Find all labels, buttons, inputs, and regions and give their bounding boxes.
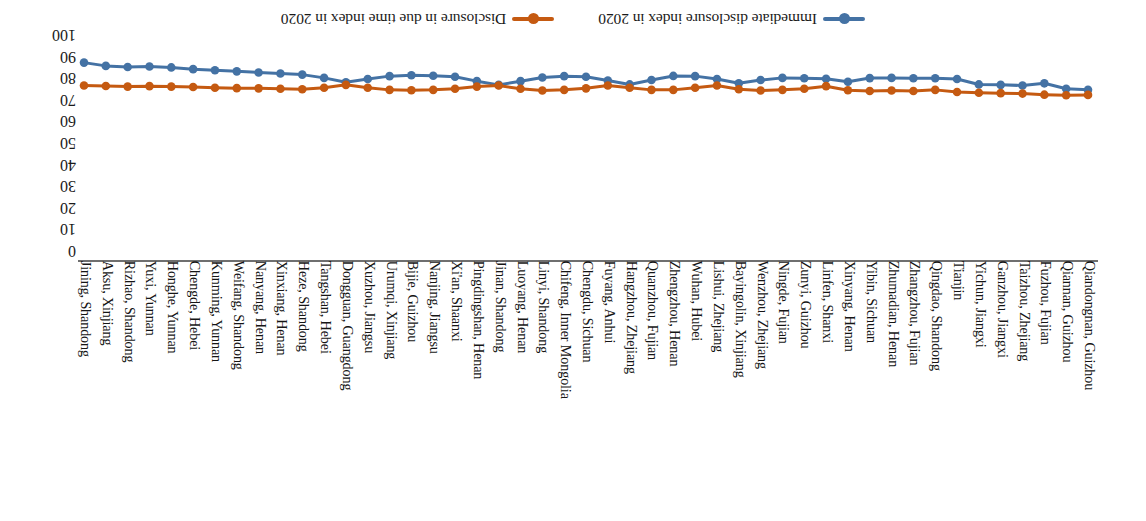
x-tick-label: Luoyang, Henan — [516, 261, 530, 353]
data-point-marker[interactable] — [669, 72, 678, 81]
data-point-marker[interactable] — [1040, 90, 1049, 99]
x-tick-label: Hangzhou, Zhejiang — [625, 261, 639, 374]
data-point-marker[interactable] — [582, 84, 591, 93]
legend-entry-1[interactable]: Disclosure in due time index in 2020 — [281, 10, 554, 28]
data-point-marker[interactable] — [276, 84, 285, 93]
data-point-marker[interactable] — [429, 86, 438, 95]
x-tick-label: Taizhou, Zhejiang — [1018, 261, 1032, 361]
data-point-marker[interactable] — [647, 86, 656, 95]
data-point-marker[interactable] — [167, 82, 176, 91]
data-point-marker[interactable] — [80, 81, 89, 90]
data-point-marker[interactable] — [516, 84, 525, 93]
data-point-marker[interactable] — [167, 63, 176, 72]
data-point-marker[interactable] — [189, 65, 198, 74]
data-point-marker[interactable] — [232, 67, 241, 76]
data-point-marker[interactable] — [407, 86, 416, 95]
data-point-marker[interactable] — [604, 81, 613, 90]
data-point-marker[interactable] — [647, 76, 656, 85]
x-tick-label: Xinxiang, Henan — [275, 261, 289, 356]
data-point-marker[interactable] — [822, 74, 831, 83]
data-point-marker[interactable] — [320, 74, 329, 83]
data-point-marker[interactable] — [1040, 79, 1049, 88]
data-point-marker[interactable] — [996, 89, 1005, 98]
data-point-marker[interactable] — [953, 88, 962, 97]
data-point-marker[interactable] — [865, 87, 874, 96]
data-point-marker[interactable] — [560, 86, 569, 95]
data-point-marker[interactable] — [669, 86, 678, 95]
data-point-marker[interactable] — [80, 58, 89, 67]
data-point-marker[interactable] — [538, 86, 547, 95]
data-point-marker[interactable] — [691, 83, 700, 92]
data-point-marker[interactable] — [909, 87, 918, 96]
data-point-marker[interactable] — [931, 74, 940, 83]
data-point-marker[interactable] — [713, 81, 722, 90]
data-point-marker[interactable] — [211, 83, 220, 92]
data-point-marker[interactable] — [778, 86, 787, 95]
data-point-marker[interactable] — [298, 70, 307, 79]
data-point-marker[interactable] — [473, 82, 482, 91]
data-point-marker[interactable] — [123, 63, 132, 72]
data-point-marker[interactable] — [538, 73, 547, 82]
data-point-marker[interactable] — [822, 82, 831, 91]
data-point-marker[interactable] — [931, 86, 940, 95]
series-container — [84, 43, 1088, 261]
data-point-marker[interactable] — [756, 86, 765, 95]
y-tick-label: 100 — [52, 27, 76, 43]
x-tick-label: Urumqi, Xinjiang — [385, 261, 399, 359]
data-point-marker[interactable] — [953, 75, 962, 84]
data-point-marker[interactable] — [844, 78, 853, 87]
data-point-marker[interactable] — [1018, 89, 1027, 98]
data-point-marker[interactable] — [1084, 91, 1093, 100]
data-point-marker[interactable] — [102, 82, 111, 91]
data-point-marker[interactable] — [429, 71, 438, 80]
data-point-marker[interactable] — [189, 83, 198, 92]
x-tick-label: Zunyi, Guizhou — [799, 261, 813, 349]
x-tick-label: Jining, Shandong — [79, 261, 93, 357]
data-point-marker[interactable] — [385, 72, 394, 81]
data-point-marker[interactable] — [975, 88, 984, 97]
data-point-marker[interactable] — [887, 74, 896, 83]
data-point-marker[interactable] — [560, 72, 569, 81]
x-tick-label: Wenzhou, Zhejiang — [756, 261, 770, 369]
data-point-marker[interactable] — [887, 86, 896, 95]
data-point-marker[interactable] — [385, 86, 394, 95]
data-point-marker[interactable] — [276, 69, 285, 78]
data-point-marker[interactable] — [756, 76, 765, 85]
data-point-marker[interactable] — [232, 84, 241, 93]
data-point-marker[interactable] — [363, 75, 372, 84]
data-point-marker[interactable] — [800, 84, 809, 93]
data-point-marker[interactable] — [145, 62, 154, 71]
data-point-marker[interactable] — [996, 81, 1005, 90]
data-point-marker[interactable] — [363, 83, 372, 92]
data-point-marker[interactable] — [800, 74, 809, 83]
data-point-marker[interactable] — [844, 86, 853, 95]
y-tick-label: 80 — [60, 70, 76, 86]
data-point-marker[interactable] — [342, 81, 351, 90]
legend-entry-0[interactable]: Immediate disclosure index in 2020 — [598, 10, 865, 28]
data-point-marker[interactable] — [691, 72, 700, 81]
x-tick-label: Aksu, Xinjiang — [101, 261, 115, 346]
data-point-marker[interactable] — [211, 66, 220, 75]
data-point-marker[interactable] — [582, 72, 591, 81]
data-point-marker[interactable] — [778, 74, 787, 83]
data-point-marker[interactable] — [145, 82, 154, 91]
data-point-marker[interactable] — [451, 84, 460, 93]
data-point-marker[interactable] — [254, 68, 263, 77]
data-point-marker[interactable] — [909, 74, 918, 83]
data-point-marker[interactable] — [298, 85, 307, 94]
data-point-marker[interactable] — [865, 74, 874, 83]
data-point-marker[interactable] — [1018, 81, 1027, 90]
data-point-marker[interactable] — [625, 83, 634, 92]
data-point-marker[interactable] — [123, 82, 132, 91]
data-point-marker[interactable] — [734, 85, 743, 94]
data-point-marker[interactable] — [102, 62, 111, 71]
data-point-marker[interactable] — [254, 84, 263, 93]
x-tick-label: Linyi, Shandong — [537, 261, 551, 353]
data-point-marker[interactable] — [1062, 91, 1071, 100]
data-point-marker[interactable] — [975, 80, 984, 89]
data-point-marker[interactable] — [320, 83, 329, 92]
data-point-marker[interactable] — [451, 72, 460, 81]
data-point-marker[interactable] — [516, 77, 525, 86]
data-point-marker[interactable] — [494, 81, 503, 90]
data-point-marker[interactable] — [407, 71, 416, 80]
